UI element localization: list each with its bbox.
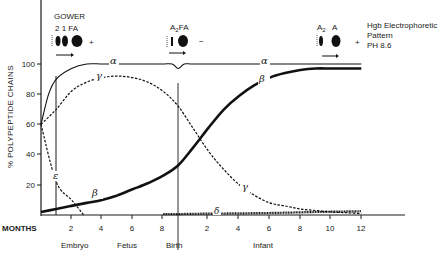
stage-infant: Infant [253,241,274,250]
label-gamma-2: γ [242,181,248,192]
label-beta-1: β [91,187,98,198]
curve-δ [163,211,361,214]
birth-gel-label: A2FA [170,23,189,33]
x-tick-infant-6: 6 [267,224,272,233]
curves [41,64,361,215]
gower-sign: + [89,38,94,47]
label-gamma-1: γ [96,70,102,81]
label-alpha-1: α [110,55,117,66]
gel-birth: A2FA − [167,23,204,55]
y-tick-100: 100 [22,60,36,69]
gel-infant: A2 A + [317,23,360,58]
x-tick-infant-12: 12 [357,224,366,233]
curve-γ [41,76,361,213]
label-epsilon: ε [53,170,58,181]
x-tick-infant-8: 8 [298,224,303,233]
x-tick-infant-4: 4 [236,224,241,233]
y-axis-title: % POLYPEPTIDE CHAINS [6,65,15,168]
y-ticks: 100 80 60 40 20 [22,60,41,190]
x-tick-prenatal-6: 6 [130,224,135,233]
curve-α [41,64,361,125]
legend-line-3: PH 8.6 [367,41,392,50]
x-tick-infant-2: 2 [205,224,210,233]
arrow-icon [336,54,339,58]
stage-embryo: Embryo [61,241,89,250]
y-tick-40: 40 [26,150,35,159]
legend-line-1: Hgb Electrophoretic [367,21,437,30]
gower-band-labels: 2 1 FA [55,24,79,33]
label-beta-2: β [258,73,265,84]
legend-line-2: Pattern [367,31,393,40]
y-tick-60: 60 [26,120,35,129]
hemoglobin-chain-chart: 100 80 60 40 20 % POLYPEPTIDE CHAINS MON… [0,0,441,265]
curve-ε [41,124,84,215]
arrow-icon [183,51,186,55]
x-axis-title: MONTHS [2,224,37,233]
stage-fetus: Fetus [117,241,137,250]
label-delta: δ [214,206,219,216]
infant-a2-label: A2 [317,23,326,33]
y-tick-80: 80 [26,90,35,99]
infant-a-label: A [332,23,338,32]
label-alpha-2: α [261,55,268,66]
y-tick-20: 20 [26,181,35,190]
arrow-icon [71,53,74,57]
x-tick-prenatal-4: 4 [99,224,104,233]
x-tick-prenatal-8: 8 [160,224,165,233]
infant-sign: + [355,38,360,47]
gower-title: GOWER [54,12,85,21]
x-tick-infant-10: 10 [326,224,335,233]
gel-gower: GOWER 2 1 FA + [52,12,94,57]
birth-sign: − [199,37,204,46]
x-tick-prenatal-2: 2 [69,224,74,233]
legend: Hgb Electrophoretic Pattern PH 8.6 [367,21,437,50]
stage-birth: Birth [166,241,182,250]
